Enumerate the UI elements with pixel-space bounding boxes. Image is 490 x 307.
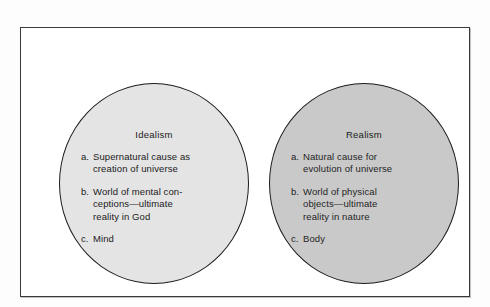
circle-idealism: Idealism a. Supernatural cause as creati… — [59, 83, 249, 284]
list-item: b. World of physical objects—ultimate re… — [291, 186, 437, 223]
circle-idealism-title: Idealism — [135, 129, 172, 140]
circle-realism-title: Realism — [346, 129, 382, 140]
list-item: c. Mind — [81, 233, 227, 245]
circle-idealism-item-list: a. Supernatural cause as creation of uni… — [81, 151, 227, 245]
list-item-marker: c. — [81, 233, 93, 245]
list-item-text: Body — [303, 233, 325, 245]
circle-realism-item-list: a. Natural cause for evolution of univer… — [291, 151, 437, 245]
list-item-marker: a. — [81, 151, 93, 163]
list-item: b. World of mental con- ceptions—ultimat… — [81, 186, 227, 223]
list-item-marker: a. — [291, 151, 303, 163]
list-item-marker: c. — [291, 233, 303, 245]
list-item: a. Supernatural cause as creation of uni… — [81, 151, 227, 176]
list-item: a. Natural cause for evolution of univer… — [291, 151, 437, 176]
list-item-text: Supernatural cause as creation of univer… — [93, 151, 190, 176]
circle-realism-content: Realism a. Natural cause for evolution o… — [270, 84, 458, 283]
circle-idealism-content: Idealism a. Supernatural cause as creati… — [60, 84, 248, 283]
figure-frame: Idealism a. Supernatural cause as creati… — [20, 27, 470, 297]
list-item-marker: b. — [81, 186, 93, 198]
list-item-marker: b. — [291, 186, 303, 198]
circle-realism: Realism a. Natural cause for evolution o… — [269, 83, 459, 284]
list-item-text: World of physical objects—ultimate reali… — [303, 186, 377, 223]
list-item: c. Body — [291, 233, 437, 245]
list-item-text: Mind — [93, 233, 114, 245]
figure-canvas: Idealism a. Supernatural cause as creati… — [0, 0, 490, 307]
list-item-text: Natural cause for evolution of universe — [303, 151, 392, 176]
list-item-text: World of mental con- ceptions—ultimate r… — [93, 186, 182, 223]
